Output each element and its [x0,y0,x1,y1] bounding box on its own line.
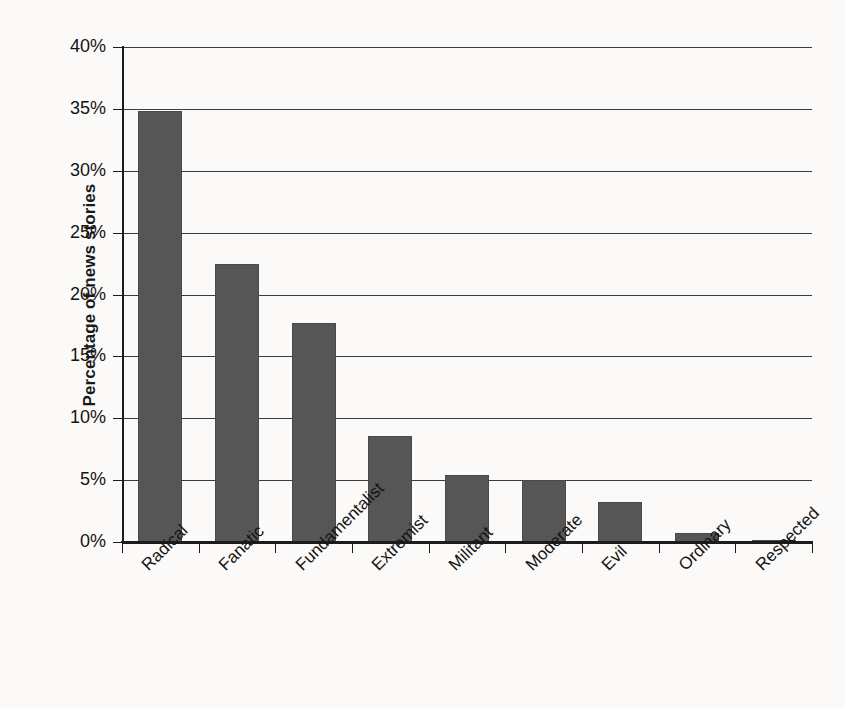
x-tick-mark [505,542,506,553]
x-tick-mark [199,542,200,553]
y-tick-label: 30% [36,160,106,181]
x-tick-mark [352,542,353,553]
y-tick-label: 15% [36,345,106,366]
y-tick-label: 10% [36,407,106,428]
bar [292,323,336,542]
x-tick-mark [429,542,430,553]
x-tick-mark [735,542,736,553]
x-tick-mark [659,542,660,553]
bar [598,502,642,542]
y-tick-label: 25% [36,222,106,243]
bar-chart-figure: Percentage of news stories 0%5%10%15%20%… [0,0,845,708]
x-tick-mark [275,542,276,553]
y-axis-line [122,46,124,544]
y-tick-label: 20% [36,284,106,305]
plot-area [122,47,812,542]
y-tick-label: 0% [36,531,106,552]
gridline [122,171,812,172]
y-tick-label: 35% [36,98,106,119]
gridline [122,233,812,234]
y-tick-label: 5% [36,469,106,490]
x-tick-mark [582,542,583,553]
y-tick-label: 40% [36,36,106,57]
bar [138,111,182,542]
bar [215,264,259,542]
x-tick-label: Evil [598,542,632,576]
x-tick-mark [812,542,813,553]
x-tick-mark [122,542,123,553]
gridline [122,109,812,110]
gridline [122,47,812,48]
